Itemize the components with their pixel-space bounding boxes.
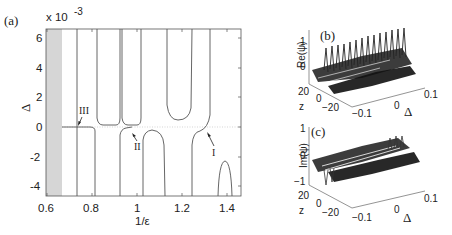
y-tick-label: −20: [322, 207, 339, 218]
z-tick-label: −1: [294, 176, 306, 187]
x-axis: [352, 191, 425, 208]
y-axis-label: Δ: [18, 104, 33, 112]
curve-small-arch: [218, 161, 232, 196]
y-tick-label: 20: [298, 190, 310, 201]
y-tick-label: 0: [36, 121, 42, 133]
curve-upper-u1: [97, 29, 120, 125]
x-axis-label: Δ: [403, 210, 411, 225]
panel-c-label: (c): [311, 124, 325, 139]
figure: (a) x 10 -3 0.6 0.8 1 1.2: [0, 0, 452, 235]
curve-upper-u2: [122, 29, 141, 125]
x-tick-label: −0.1: [352, 212, 372, 223]
y-tick-label: -2: [30, 151, 40, 163]
x-tick-label: 0: [394, 204, 400, 215]
panel-b-label: (b): [320, 28, 335, 43]
annotation-ii: II: [134, 141, 141, 152]
z-tick-label: 0: [300, 61, 306, 72]
y-axis-label: z: [299, 205, 304, 216]
arrowhead-icon: [78, 121, 81, 126]
shaded-region: [46, 29, 62, 196]
x-tick-label: 1.4: [219, 202, 236, 214]
z-tick-label: 1: [300, 123, 306, 134]
panel-b: (b) Re(ψ) 1 0 20 0 −20 z −0.1 0 0.1 Δ: [296, 28, 438, 119]
panel-c: (c) Im(ψ) 1 0 −1 20 0 −20 z −0.1 0 0.1 Δ: [294, 123, 438, 225]
y-axis-label: z: [299, 101, 304, 112]
x-axis: [352, 88, 425, 107]
y-tick-label: -4: [30, 180, 41, 192]
y-tick-label: 2: [36, 91, 42, 103]
z-tick-label: 1: [300, 36, 306, 47]
x-tick-label: 0.1: [424, 193, 438, 204]
x-tick-label: 1.2: [174, 202, 190, 214]
curve-zero-branch: [62, 127, 95, 196]
surface-im: [312, 136, 420, 185]
x-axis-label: 1/ε: [135, 215, 150, 227]
z-tick-label: 0: [300, 150, 306, 161]
curve-lower-arch: [143, 130, 165, 196]
y-tick-label: −20: [322, 102, 339, 113]
y-tick-label: 4: [36, 62, 43, 74]
curve-lower-branch: [120, 127, 132, 196]
x-tick-label: 0.1: [424, 89, 438, 100]
y-tick-label: 20: [298, 86, 310, 97]
y-tick-label: 6: [36, 32, 42, 44]
curve-upper-u3: [167, 29, 192, 120]
plot-frame: [46, 29, 241, 196]
x-tick-marks: [47, 29, 227, 196]
annotation-iii: III: [79, 105, 89, 116]
x-tick-label: −0.1: [352, 108, 372, 119]
curve-branch-i: [192, 29, 210, 196]
x-axis-label: Δ: [404, 104, 412, 119]
arrowhead-icon: [207, 132, 211, 137]
x-tick-label: 0: [394, 100, 400, 111]
annotation-i: I: [212, 147, 215, 158]
x-tick-label: 0.6: [38, 202, 54, 214]
y-tick-marks: [238, 38, 241, 186]
panel-a: (a) x 10 -3 0.6 0.8 1 1.2: [4, 6, 241, 227]
arrowhead-icon: [132, 133, 136, 137]
panel-a-label: (a): [4, 13, 18, 28]
x-tick-label: 0.8: [83, 202, 99, 214]
exponent-label: x 10: [46, 11, 68, 23]
exponent-power: -3: [74, 6, 83, 17]
x-tick-label: 1: [134, 202, 140, 214]
